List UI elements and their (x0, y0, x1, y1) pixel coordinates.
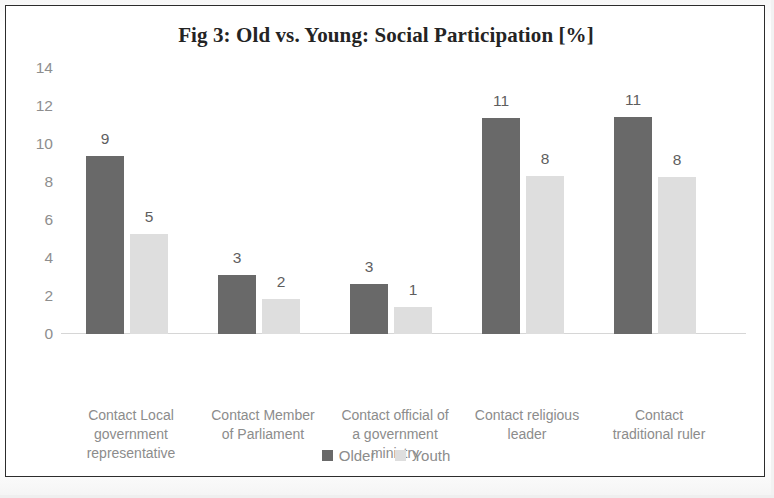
y-tick-label-14: 14 (9, 59, 53, 77)
y-tick-label-10: 10 (9, 135, 53, 153)
bar-older (350, 284, 388, 334)
category-label: Contact religiousleader (457, 406, 597, 444)
bar-youth (262, 299, 300, 334)
bar-value-label: 9 (86, 130, 124, 148)
bar-older (614, 117, 652, 334)
bar-value-label: 8 (526, 150, 564, 168)
plot-area: 02468101214 953231118118 Contact Localgo… (61, 68, 746, 334)
bar-older (218, 275, 256, 334)
y-tick-label-0: 0 (9, 325, 53, 343)
bar-value-label: 3 (218, 249, 256, 267)
figure-page: Fig 3: Old vs. Young: Social Participati… (0, 0, 774, 498)
chart-title: Fig 3: Old vs. Young: Social Participati… (6, 23, 766, 48)
legend-swatch-icon (322, 450, 333, 461)
bar-value-label: 8 (658, 151, 696, 169)
legend-label: Youth (412, 447, 450, 464)
y-tick-label-6: 6 (9, 211, 53, 229)
category-label: Contact Memberof Parliament (193, 406, 333, 444)
legend-label: Older (339, 447, 376, 464)
bar-value-label: 2 (262, 273, 300, 291)
category-label: Contacttraditional ruler (589, 406, 729, 444)
y-tick-label-8: 8 (9, 173, 53, 191)
bar-youth (526, 176, 564, 334)
bar-group: 118 (457, 68, 589, 334)
bar-group: 32 (193, 68, 325, 334)
bar-older (482, 118, 520, 334)
bar-value-label: 11 (614, 91, 652, 109)
bar-youth (658, 177, 696, 334)
y-tick-label-4: 4 (9, 249, 53, 267)
bar-value-label: 1 (394, 281, 432, 299)
bar-older (86, 156, 124, 334)
legend-item[interactable]: Youth (395, 447, 450, 464)
legend-swatch-icon (395, 450, 406, 461)
bar-group: 31 (325, 68, 457, 334)
y-tick-label-2: 2 (9, 287, 53, 305)
bar-youth (130, 234, 168, 334)
chart-frame-border: Fig 3: Old vs. Young: Social Participati… (5, 5, 765, 477)
chart-legend: OlderYouth (6, 447, 766, 464)
bar-value-label: 5 (130, 208, 168, 226)
y-tick-label-12: 12 (9, 97, 53, 115)
legend-item[interactable]: Older (322, 447, 376, 464)
bar-value-label: 3 (350, 258, 388, 276)
bar-youth (394, 307, 432, 334)
bar-value-label: 11 (482, 92, 520, 110)
bar-group: 95 (61, 68, 193, 334)
bar-group: 118 (589, 68, 721, 334)
